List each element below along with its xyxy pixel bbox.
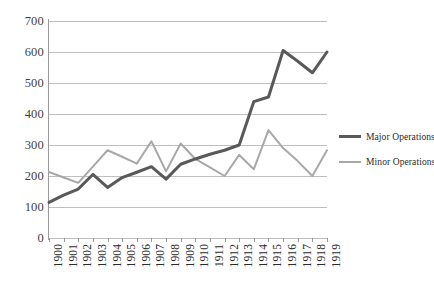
x-tick-label-1913: 1913 bbox=[243, 244, 255, 267]
x-tick-mark-1906 bbox=[137, 238, 138, 242]
x-tick-label-1903: 1903 bbox=[97, 244, 109, 267]
y-tick-label-200: 200 bbox=[4, 170, 44, 183]
x-tick-mark-1915 bbox=[268, 238, 269, 242]
x-tick-label-1905: 1905 bbox=[126, 244, 138, 267]
x-tick-label-1917: 1917 bbox=[302, 244, 314, 267]
x-tick-mark-1905 bbox=[122, 238, 123, 242]
y-tick-label-600: 600 bbox=[4, 46, 44, 59]
x-tick-label-1919: 1919 bbox=[331, 244, 343, 267]
x-tick-mark-1910 bbox=[195, 238, 196, 242]
legend-label-minor: Minor Operations bbox=[366, 157, 434, 167]
y-tick-label-500: 500 bbox=[4, 77, 44, 90]
x-tick-label-1918: 1918 bbox=[316, 244, 328, 267]
y-tick-label-100: 100 bbox=[4, 201, 44, 214]
series-layer bbox=[49, 21, 327, 238]
x-tick-mark-1911 bbox=[210, 238, 211, 242]
x-tick-label-1901: 1901 bbox=[68, 244, 80, 267]
legend-label-major: Major Operations bbox=[366, 132, 434, 142]
x-tick-mark-1907 bbox=[151, 238, 152, 242]
x-tick-mark-1913 bbox=[239, 238, 240, 242]
x-tick-mark-1902 bbox=[78, 238, 79, 242]
x-tick-mark-1912 bbox=[225, 238, 226, 242]
x-axis-labels: 1900190119021903190419051906190719081909… bbox=[49, 238, 327, 283]
line-major-operations bbox=[49, 50, 327, 202]
x-tick-label-1912: 1912 bbox=[229, 244, 241, 267]
x-tick-mark-1903 bbox=[93, 238, 94, 242]
y-tick-label-700: 700 bbox=[4, 15, 44, 28]
x-tick-mark-1908 bbox=[166, 238, 167, 242]
x-tick-label-1911: 1911 bbox=[214, 244, 226, 267]
x-tick-label-1908: 1908 bbox=[170, 244, 182, 267]
y-tick-label-400: 400 bbox=[4, 108, 44, 121]
y-axis-labels: 0100200300400500600700 bbox=[0, 0, 44, 283]
x-tick-label-1914: 1914 bbox=[258, 244, 270, 267]
x-tick-mark-1909 bbox=[181, 238, 182, 242]
x-tick-mark-1900 bbox=[49, 238, 50, 242]
x-tick-label-1910: 1910 bbox=[199, 244, 211, 267]
x-tick-label-1900: 1900 bbox=[53, 244, 65, 267]
x-tick-label-1902: 1902 bbox=[82, 244, 94, 267]
legend-item-minor-operations: Minor Operations bbox=[339, 152, 434, 171]
x-tick-mark-1904 bbox=[108, 238, 109, 242]
x-tick-mark-1901 bbox=[64, 238, 65, 242]
x-tick-label-1904: 1904 bbox=[112, 244, 124, 267]
x-tick-label-1909: 1909 bbox=[185, 244, 197, 267]
x-tick-label-1915: 1915 bbox=[272, 244, 284, 267]
x-tick-label-1916: 1916 bbox=[287, 244, 299, 267]
chart-legend: Major Operations Minor Operations bbox=[339, 127, 434, 177]
x-tick-mark-1916 bbox=[283, 238, 284, 242]
y-tick-label-0: 0 bbox=[4, 232, 44, 245]
chart-figure: 0100200300400500600700 19001901190219031… bbox=[0, 0, 434, 283]
legend-swatch-minor-icon bbox=[339, 161, 361, 163]
x-tick-label-1906: 1906 bbox=[141, 244, 153, 267]
x-tick-mark-1917 bbox=[298, 238, 299, 242]
x-tick-mark-1919 bbox=[327, 238, 328, 242]
plot-area bbox=[49, 21, 327, 238]
x-tick-mark-1918 bbox=[312, 238, 313, 242]
y-tick-label-300: 300 bbox=[4, 139, 44, 152]
legend-swatch-major-icon bbox=[339, 135, 361, 138]
x-tick-label-1907: 1907 bbox=[155, 244, 167, 267]
x-tick-mark-1914 bbox=[254, 238, 255, 242]
legend-item-major-operations: Major Operations bbox=[339, 127, 434, 146]
